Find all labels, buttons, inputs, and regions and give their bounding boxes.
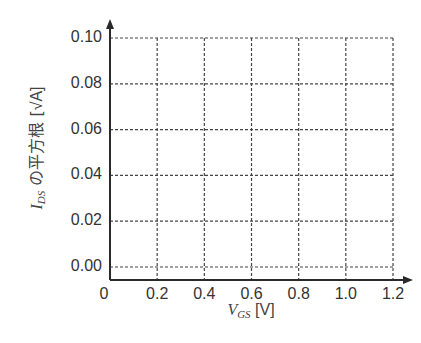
y-tick-label: 0.08 xyxy=(42,74,102,92)
y-tick-label: 0.04 xyxy=(42,165,102,183)
x-tick-label: 0.2 xyxy=(137,285,177,303)
grid-lines xyxy=(110,38,393,280)
y-tick-label: 0.00 xyxy=(42,257,102,275)
x-axis-arrow-icon xyxy=(403,276,413,284)
x-tick-label: 1.0 xyxy=(326,285,366,303)
x-tick-label: 0 xyxy=(84,285,124,303)
y-tick-label: 0.06 xyxy=(42,120,102,138)
y-axis-arrow-icon xyxy=(106,19,114,29)
x-tick-label: 1.2 xyxy=(373,285,413,303)
x-axis-label: VGS [V] xyxy=(227,301,274,320)
x-tick-label: 0.4 xyxy=(184,285,224,303)
y-tick-label: 0.10 xyxy=(42,28,102,46)
y-axis-label: IDS の平方根 [√A] xyxy=(23,86,47,209)
axes xyxy=(106,19,413,284)
x-tick-label: 0.8 xyxy=(279,285,319,303)
y-tick-label: 0.02 xyxy=(42,211,102,229)
